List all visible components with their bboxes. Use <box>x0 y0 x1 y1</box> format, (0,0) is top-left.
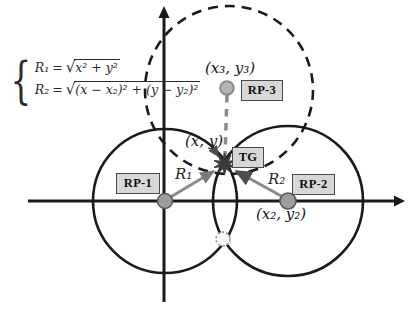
trilateration-diagram: { R₁ = √ x² + y² R₂ = √ (x − x₂)² + (y −… <box>0 0 409 312</box>
rp3-tag: RP-3 <box>241 80 283 101</box>
mirror-intersection-point <box>216 232 230 246</box>
formula-r1: R₁ = √ x² + y² <box>35 59 201 81</box>
rp2-coordinate-label: (x₂, y₂) <box>256 205 306 223</box>
y-axis-arrowhead <box>159 6 170 18</box>
rp3-point <box>220 81 234 95</box>
formula-r2-radicand: (x − x₂)² + (y − y₂)² <box>74 81 200 97</box>
x-axis <box>28 196 405 207</box>
formula-brace: { <box>11 56 32 106</box>
x-axis-arrowhead <box>394 196 405 207</box>
y-axis <box>159 6 170 302</box>
r3-distance-line-dashed <box>225 95 227 156</box>
formula-r2-lhs: R₂ <box>35 81 49 99</box>
diagram-canvas <box>0 0 409 312</box>
formula-r2-equals: = <box>49 81 65 99</box>
formula-r1-radicand: x² + y² <box>74 59 120 75</box>
rp1-tag: RP-1 <box>116 173 160 194</box>
tg-tag: TG <box>232 147 264 168</box>
formula-lines: R₁ = √ x² + y² R₂ = √ (x − x₂)² + (y − y… <box>35 59 201 103</box>
formula-r2: R₂ = √ (x − x₂)² + (y − y₂)² <box>35 81 201 103</box>
formula-block: { R₁ = √ x² + y² R₂ = √ (x − x₂)² + (y −… <box>5 56 200 106</box>
r1-distance-label: R₁ <box>175 165 192 183</box>
tg-coordinate-label: (x, y) <box>185 132 223 150</box>
rp3-coordinate-label: (x₃, y₃) <box>205 59 255 77</box>
formula-r1-equals: = <box>49 59 65 77</box>
rp2-tag: RP-2 <box>292 174 335 195</box>
r2-distance-label: R₂ <box>268 170 285 188</box>
formula-r1-lhs: R₁ <box>35 59 49 77</box>
rp1-point <box>158 194 173 209</box>
